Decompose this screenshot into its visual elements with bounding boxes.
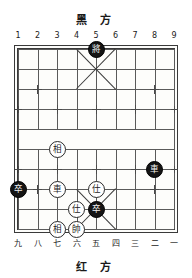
piece-glyph: 相 — [53, 225, 62, 234]
piece-glyph: 相 — [53, 145, 62, 154]
coord-label: 一 — [167, 238, 181, 250]
coord-label: 2 — [31, 30, 45, 42]
coord-label: 8 — [148, 30, 162, 42]
grid-line-vertical — [135, 149, 136, 229]
coord-label: 二 — [148, 238, 162, 250]
star-point-marker — [15, 106, 22, 113]
piece-glyph: 車 — [150, 165, 159, 174]
black-chariot[interactable]: 車 — [146, 161, 163, 178]
star-point-marker — [171, 106, 178, 113]
red-advisor-left[interactable]: 仕 — [68, 201, 85, 218]
red-general[interactable]: 帥 — [68, 221, 85, 238]
star-point-marker — [150, 85, 159, 94]
coord-label: 七 — [50, 238, 64, 250]
xiangqi-board[interactable]: 將相車車卒仕仕卒相帥 — [14, 45, 178, 233]
coord-label: 1 — [11, 30, 25, 42]
star-point-marker — [15, 166, 22, 173]
black-general[interactable]: 將 — [88, 41, 105, 58]
star-point-marker — [171, 166, 178, 173]
red-side-label: 红 方 — [0, 258, 192, 274]
grid-line-vertical — [18, 49, 19, 229]
star-point-marker — [33, 85, 42, 94]
star-point-marker — [131, 165, 140, 174]
grid-line-vertical — [57, 49, 58, 129]
piece-glyph: 車 — [53, 185, 62, 194]
piece-glyph: 帥 — [72, 225, 81, 234]
star-point-marker — [92, 105, 101, 114]
coord-label: 九 — [11, 238, 25, 250]
black-side-label: 黑 方 — [0, 11, 192, 27]
coord-label: 6 — [109, 30, 123, 42]
coord-label: 三 — [128, 238, 142, 250]
coord-label: 四 — [109, 238, 123, 250]
red-elephant-left[interactable]: 相 — [49, 141, 66, 158]
red-chariot[interactable]: 車 — [49, 181, 66, 198]
red-advisor-right[interactable]: 仕 — [88, 181, 105, 198]
coord-label: 六 — [70, 238, 84, 250]
coord-label: 八 — [31, 238, 45, 250]
coord-label: 3 — [50, 30, 64, 42]
star-point-marker — [53, 105, 62, 114]
star-point-marker — [33, 185, 42, 194]
star-point-marker — [131, 105, 140, 114]
star-point-marker — [92, 165, 101, 174]
coord-label: 7 — [128, 30, 142, 42]
coord-label: 4 — [70, 30, 84, 42]
black-pawn-left[interactable]: 卒 — [10, 181, 27, 198]
black-pawn-center[interactable]: 卒 — [88, 201, 105, 218]
piece-glyph: 仕 — [92, 185, 101, 194]
star-point-marker — [150, 185, 159, 194]
grid-line-horizontal — [18, 229, 174, 230]
piece-glyph: 仕 — [72, 205, 81, 214]
star-point-marker — [53, 165, 62, 174]
grid-line-horizontal — [18, 129, 174, 130]
piece-glyph: 將 — [92, 45, 101, 54]
red-elephant-bottom[interactable]: 相 — [49, 221, 66, 238]
xiangqi-screenshot: 黑 方 123456789 將相車車卒仕仕卒相帥 九八七六五四三二一 红 方 — [0, 0, 192, 278]
coord-label: 9 — [167, 30, 181, 42]
piece-glyph: 卒 — [92, 205, 101, 214]
grid-line-vertical — [96, 49, 97, 129]
grid-line-vertical — [135, 49, 136, 129]
bottom-coordinate-row: 九八七六五四三二一 — [0, 238, 192, 250]
grid-line-vertical — [174, 49, 175, 229]
coord-label: 五 — [89, 238, 103, 250]
piece-glyph: 卒 — [14, 185, 23, 194]
